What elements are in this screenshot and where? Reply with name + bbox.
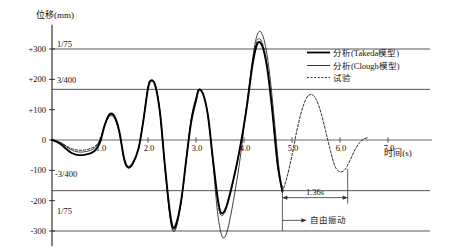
legend-label-clough: 分析(Clough模型) xyxy=(333,61,400,71)
chart-root: +300+200+1000-100-200-300 1.02.03.04.05.… xyxy=(0,0,451,250)
data-curves xyxy=(52,31,369,238)
y-tick-label: -200 xyxy=(30,196,46,206)
y-tick-labels: +300+200+1000-100-200-300 xyxy=(28,44,46,236)
reference-label-lower-mid: -3/400 xyxy=(55,169,77,179)
y-tick-label: -100 xyxy=(30,165,46,175)
y-tick-label: +200 xyxy=(28,74,46,84)
y-tick-label: 0 xyxy=(42,135,46,145)
series-line-1 xyxy=(52,31,282,238)
annotation-group: 1.36s 自由振动 xyxy=(282,169,347,231)
y-axis-title: 位移(mm) xyxy=(36,9,74,20)
x-tick-label: 2.0 xyxy=(144,143,155,153)
legend-label-takeda: 分析(Takeda模型) xyxy=(333,48,399,58)
y-tick-label: -300 xyxy=(30,226,46,236)
free-vibration-label: 自由振动 xyxy=(310,215,346,225)
reference-label-top: 1/75 xyxy=(57,39,72,49)
y-tick-label: +300 xyxy=(28,44,46,54)
free-vibration-arrowhead xyxy=(301,218,306,222)
chart-legend: 分析(Takeda模型) 分析(Clough模型) 试验 xyxy=(307,48,400,83)
duration-arrowhead-left xyxy=(282,195,287,199)
reference-label-upper-mid: 3/400 xyxy=(57,75,76,85)
series-line-2 xyxy=(52,38,282,230)
duration-arrowhead-right xyxy=(343,195,348,199)
x-tick-label: 3.0 xyxy=(192,143,203,153)
reference-label-bottom: 1/75 xyxy=(57,206,72,216)
legend-label-experiment: 试验 xyxy=(333,73,351,83)
y-tick-label: +100 xyxy=(28,105,46,115)
duration-label: 1.36s xyxy=(306,187,324,197)
x-tick-label: 6.0 xyxy=(336,143,347,153)
x-axis-title: 时间(s) xyxy=(384,147,412,158)
axes xyxy=(49,25,432,246)
x-tick-labels: 1.02.03.04.05.06.07.0 xyxy=(96,143,395,153)
series-line-0 xyxy=(52,42,282,228)
displacement-time-chart: +300+200+1000-100-200-300 1.02.03.04.05.… xyxy=(0,0,451,250)
